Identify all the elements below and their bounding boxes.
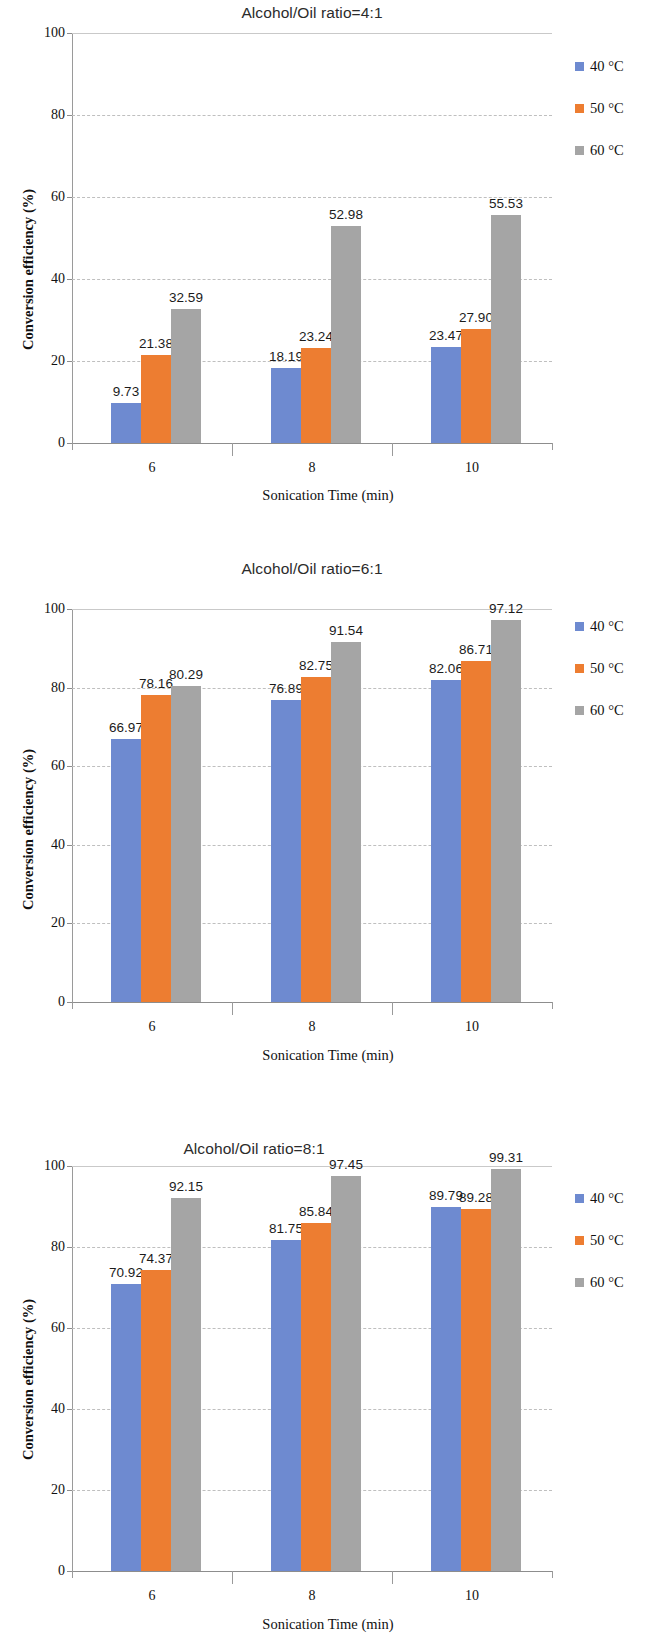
legend-swatch-icon <box>575 146 584 155</box>
category-separator <box>392 1571 393 1584</box>
category-separator <box>232 1002 233 1015</box>
y-axis-tick-mark <box>67 766 72 767</box>
bar <box>431 680 461 1002</box>
bar-value-label: 52.98 <box>329 207 363 222</box>
bar-value-label: 23.24 <box>299 329 333 344</box>
plot-area: 0204060801009.7321.3832.59618.1923.2452.… <box>72 33 552 443</box>
legend-label: 40 °C <box>590 618 624 635</box>
bar <box>111 739 141 1002</box>
y-axis-tick-label: 20 <box>51 353 65 369</box>
axis-end-tick <box>72 1002 73 1009</box>
bar <box>491 620 521 1002</box>
x-axis-tick-label: 10 <box>465 1588 479 1604</box>
bar <box>141 355 171 443</box>
legend-item[interactable]: 50 °C <box>575 1232 624 1249</box>
bar <box>331 642 361 1002</box>
axis-end-tick <box>72 1571 73 1578</box>
x-axis-tick-label: 10 <box>465 1019 479 1035</box>
legend-label: 50 °C <box>590 1232 624 1249</box>
legend-item[interactable]: 60 °C <box>575 142 624 159</box>
legend-item[interactable]: 50 °C <box>575 100 624 117</box>
legend-item[interactable]: 60 °C <box>575 702 624 719</box>
bar-value-label: 66.97 <box>109 720 143 735</box>
bar-value-label: 97.45 <box>329 1157 363 1172</box>
x-axis-tick-label: 6 <box>149 1588 156 1604</box>
bar <box>301 677 331 1002</box>
gridline <box>72 115 552 116</box>
gridline <box>72 197 552 198</box>
y-axis-tick-mark <box>67 1247 72 1248</box>
legend-label: 50 °C <box>590 100 624 117</box>
legend-item[interactable]: 50 °C <box>575 660 624 677</box>
gridline <box>72 609 552 610</box>
gridline <box>72 33 552 34</box>
y-axis-tick-label: 100 <box>44 601 65 617</box>
y-axis-tick-mark <box>67 33 72 34</box>
legend-swatch-icon <box>575 1236 584 1245</box>
gridline <box>72 279 552 280</box>
y-axis-tick-label: 60 <box>51 758 65 774</box>
bar-value-label: 97.12 <box>489 601 523 616</box>
x-axis-title: Sonication Time (min) <box>0 1047 656 1064</box>
y-axis-tick-label: 0 <box>58 435 65 451</box>
category-separator <box>232 443 233 456</box>
y-axis-tick-label: 60 <box>51 189 65 205</box>
bar-value-label: 78.16 <box>139 676 173 691</box>
legend-item[interactable]: 40 °C <box>575 58 624 75</box>
bar <box>171 309 201 443</box>
bar <box>331 226 361 443</box>
bar-value-label: 81.75 <box>269 1221 303 1236</box>
bar <box>271 1240 301 1571</box>
bar-value-label: 86.71 <box>459 642 493 657</box>
bar-value-label: 92.15 <box>169 1179 203 1194</box>
bar-value-label: 23.47 <box>429 328 463 343</box>
y-axis-title: Conversion efficiency (%) <box>20 749 37 910</box>
bar <box>301 348 331 443</box>
plot-area: 02040608010070.9274.3792.15681.7585.8497… <box>72 1166 552 1571</box>
bar-value-label: 91.54 <box>329 623 363 638</box>
legend-item[interactable]: 60 °C <box>575 1274 624 1291</box>
bar <box>491 215 521 443</box>
legend-swatch-icon <box>575 622 584 631</box>
y-axis-tick-label: 20 <box>51 1482 65 1498</box>
axis-end-tick <box>552 1002 553 1009</box>
legend-item[interactable]: 40 °C <box>575 1190 624 1207</box>
x-axis-tick-label: 6 <box>149 1019 156 1035</box>
y-axis-tick-label: 100 <box>44 25 65 41</box>
legend: 40 °C50 °C60 °C <box>575 618 656 728</box>
bar <box>171 1198 201 1571</box>
x-axis-tick-label: 6 <box>149 460 156 476</box>
legend-label: 60 °C <box>590 702 624 719</box>
y-axis-tick-label: 60 <box>51 1320 65 1336</box>
y-axis-tick-mark <box>67 197 72 198</box>
chart-panel-ratio-6-1: Alcohol/Oil ratio=6:1 Conversion efficie… <box>0 550 656 1079</box>
chart-panel-ratio-4-1: Alcohol/Oil ratio=4:1 Conversion efficie… <box>0 0 656 520</box>
y-axis-tick-label: 40 <box>51 837 65 853</box>
y-axis-tick-mark <box>67 1490 72 1491</box>
bar <box>331 1176 361 1571</box>
bar-value-label: 82.06 <box>429 661 463 676</box>
y-axis-tick-mark <box>67 361 72 362</box>
bar-value-label: 80.29 <box>169 667 203 682</box>
y-axis-tick-mark <box>67 609 72 610</box>
y-axis-tick-label: 0 <box>58 1563 65 1579</box>
bar <box>141 1270 171 1571</box>
x-axis-tick-label: 8 <box>309 460 316 476</box>
bar-value-label: 32.59 <box>169 290 203 305</box>
bar <box>141 695 171 1002</box>
chart-title: Alcohol/Oil ratio=6:1 <box>72 560 552 578</box>
bar <box>111 1284 141 1571</box>
x-axis-title: Sonication Time (min) <box>0 1616 656 1633</box>
legend-label: 60 °C <box>590 142 624 159</box>
legend-label: 60 °C <box>590 1274 624 1291</box>
legend-label: 40 °C <box>590 1190 624 1207</box>
bar-value-label: 82.75 <box>299 658 333 673</box>
y-axis-tick-label: 80 <box>51 1239 65 1255</box>
bar-value-label: 85.84 <box>299 1204 333 1219</box>
y-axis-line <box>72 33 73 443</box>
bar <box>461 1209 491 1571</box>
bar-value-label: 70.92 <box>109 1265 143 1280</box>
x-axis-tick-label: 8 <box>309 1019 316 1035</box>
legend-swatch-icon <box>575 664 584 673</box>
legend-item[interactable]: 40 °C <box>575 618 624 635</box>
